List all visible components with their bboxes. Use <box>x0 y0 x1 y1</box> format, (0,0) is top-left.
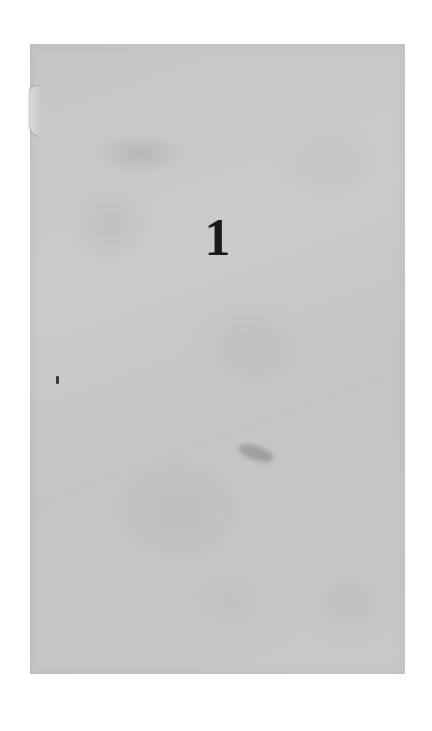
paper-stain <box>237 441 276 465</box>
torn-edge <box>30 86 42 136</box>
ink-speck <box>56 376 59 384</box>
scanned-document: 1 <box>0 0 432 731</box>
page-number: 1 <box>30 212 405 264</box>
paper-page: 1 <box>30 44 405 674</box>
